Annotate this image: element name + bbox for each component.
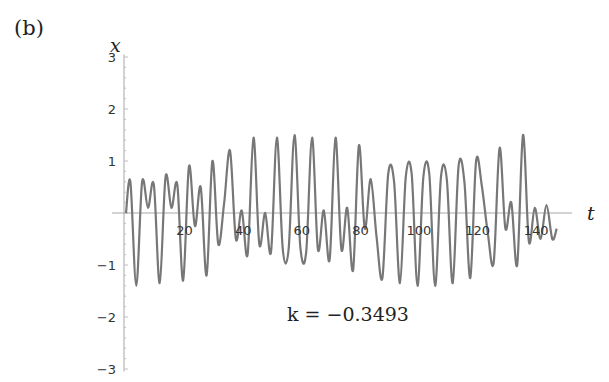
x-axis-title: t <box>587 202 595 224</box>
k-annotation: k = −0.3493 <box>287 303 409 325</box>
x-tick-label: 60 <box>294 223 311 238</box>
y-tick-label: −2 <box>97 310 116 325</box>
x-tick-label: 40 <box>235 223 252 238</box>
x-tick-label: 140 <box>524 223 549 238</box>
y-tick-label: 2 <box>108 102 116 117</box>
data-line <box>126 135 557 286</box>
x-tick-label: 120 <box>465 223 490 238</box>
x-tick-label: 80 <box>352 223 369 238</box>
x-tick-label: 100 <box>407 223 432 238</box>
y-axis-title: x <box>110 34 121 56</box>
x-tick-label: 20 <box>176 223 193 238</box>
y-tick-label: 1 <box>108 154 116 169</box>
y-tick-label: −3 <box>97 362 116 377</box>
line-chart: 20406080100120140 −3−2−1123 x t k = −0.3… <box>0 0 609 382</box>
y-tick-label: −1 <box>97 258 116 273</box>
x-tick-labels: 20406080100120140 <box>176 223 548 238</box>
